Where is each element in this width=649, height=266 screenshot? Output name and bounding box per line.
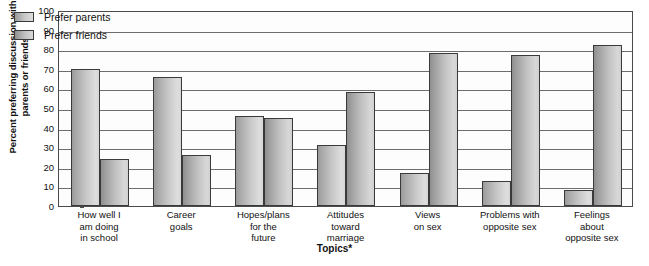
x-category-label-line: am doing [58,221,140,233]
bar [482,181,511,206]
x-category-label-line: opposite sex [469,221,551,233]
bar [317,145,346,206]
bar [400,173,429,206]
y-tick-label-0: 0 [26,202,54,212]
bar [346,92,375,206]
x-category-label: Attitudestowardmarriage [304,209,386,244]
x-category-label-line: Feelings [551,209,633,221]
bar [100,159,129,206]
y-tick-label-50: 50 [26,104,54,114]
x-category-label-line: opposite sex [551,232,633,244]
x-category-label-line: goals [140,221,222,233]
x-category-label-line: toward [304,221,386,233]
legend-label: Prefer parents [44,11,111,23]
bar [235,116,264,206]
x-category-label-line: Views [387,209,469,221]
x-category-label: How well Iam doingin school [58,209,140,244]
x-category-label: Hopes/plansfor thefuture [222,209,304,244]
y-tick-label-80: 80 [26,45,54,55]
legend-label: Prefer friends [44,29,107,41]
x-category-label-line: How well I [58,209,140,221]
x-category-label: Problems withopposite sex [469,209,551,232]
y-tick-label-70: 70 [26,65,54,75]
x-category-label: Viewson sex [387,209,469,232]
legend-swatch-icon [14,12,34,22]
bar [429,53,458,206]
bar [564,190,593,206]
bar-group [470,12,552,206]
bar-chart: Percent preferring discussion with paren… [0,0,649,266]
bar-group [223,12,305,206]
x-category-label-line: Hopes/plans [222,209,304,221]
legend: Prefer parentsPrefer friends [14,9,204,45]
x-category-label-line: in school [58,232,140,244]
bar-group [552,12,633,206]
bar-group [388,12,470,206]
legend-swatch-icon [14,30,34,40]
legend-item-parents[interactable]: Prefer parents [14,9,204,25]
bar [182,155,211,206]
x-category-label-line: future [222,232,304,244]
y-tick-label-30: 30 [26,143,54,153]
x-category-label: Careergoals [140,209,222,232]
bar [511,55,540,206]
x-category-label-line: Problems with [469,209,551,221]
y-tick-mark-0 [80,207,84,208]
y-tick-label-10: 10 [26,183,54,193]
x-axis-title: Topics* [0,243,649,254]
x-category-label-line: for the [222,221,304,233]
bar [264,118,293,206]
bar [71,69,100,206]
legend-item-friends[interactable]: Prefer friends [14,27,204,43]
bar-group [305,12,387,206]
x-category-label: Feelingsaboutopposite sex [551,209,633,244]
y-tick-label-60: 60 [26,85,54,95]
x-category-label-line: about [551,221,633,233]
x-category-label-line: on sex [387,221,469,233]
y-tick-label-20: 20 [26,163,54,173]
x-category-label-line: Career [140,209,222,221]
x-category-label-line: Attitudes [304,209,386,221]
bar [593,45,622,206]
footnote-cutoff [62,259,302,265]
x-category-label-line: marriage [304,232,386,244]
bar [153,77,182,206]
y-tick-label-40: 40 [26,124,54,134]
